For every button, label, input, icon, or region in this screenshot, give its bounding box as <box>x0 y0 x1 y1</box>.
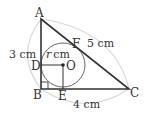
diagram-canvas: A B C D E F O 3 cm 5 cm 4 cm rcm <box>0 0 149 119</box>
label-ab-length: 3 cm <box>9 48 37 61</box>
label-point-d: D <box>31 59 41 73</box>
label-point-c: C <box>130 86 139 100</box>
radius-variable: r <box>46 48 52 61</box>
radius-unit: cm <box>53 48 70 61</box>
label-point-o: O <box>66 59 76 73</box>
label-point-f: F <box>72 37 80 51</box>
label-point-a: A <box>34 6 44 20</box>
label-point-b: B <box>33 88 42 102</box>
center-point-o <box>61 63 65 67</box>
label-ac-length: 5 cm <box>87 37 115 50</box>
label-point-e: E <box>58 89 67 103</box>
triangle-incircle-diagram: A B C D E F O 3 cm 5 cm 4 cm rcm <box>0 0 149 119</box>
label-bc-length: 4 cm <box>73 98 101 111</box>
right-angle-mark <box>41 82 48 89</box>
label-radius: rcm <box>46 48 70 61</box>
